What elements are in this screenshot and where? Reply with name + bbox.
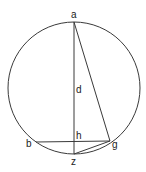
- label-b: b: [26, 138, 32, 149]
- label-z: z: [71, 156, 76, 167]
- segment-b-g: [36, 141, 110, 142]
- label-d: d: [76, 84, 82, 95]
- label-a: a: [71, 9, 77, 20]
- geometry-diagram: a d h b g z: [0, 0, 146, 172]
- label-h: h: [76, 130, 82, 141]
- segment-a-g: [74, 22, 110, 141]
- segment-z-g: [74, 141, 110, 154]
- label-g: g: [112, 139, 118, 150]
